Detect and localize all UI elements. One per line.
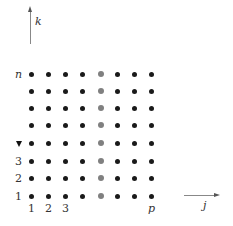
- highlighted-lattice-point: [98, 122, 104, 128]
- column-label-p: p: [148, 203, 155, 214]
- lattice-point: [80, 89, 85, 94]
- lattice-point: [46, 141, 51, 146]
- column-label-3: 3: [62, 203, 69, 214]
- lattice-point: [115, 176, 120, 181]
- lattice-point: [149, 159, 154, 164]
- lattice-point: [29, 159, 34, 164]
- lattice-point: [132, 106, 137, 111]
- lattice-point: [80, 123, 85, 128]
- lattice-point: [46, 159, 51, 164]
- lattice-point: [63, 194, 68, 199]
- lattice-point: [115, 123, 120, 128]
- column-label-2: 2: [45, 203, 52, 214]
- lattice-point: [132, 159, 137, 164]
- lattice-point: [132, 89, 137, 94]
- lattice-point: [63, 159, 68, 164]
- highlighted-lattice-point: [98, 158, 104, 164]
- lattice-point: [115, 141, 120, 146]
- lattice-point: [46, 176, 51, 181]
- lattice-point: [80, 176, 85, 181]
- lattice-point: [29, 194, 34, 199]
- lattice-point: [132, 141, 137, 146]
- k-axis-line: [30, 10, 31, 44]
- lattice-point: [115, 72, 120, 77]
- lattice-point: [29, 72, 34, 77]
- lattice-point: [149, 194, 154, 199]
- lattice-point: [80, 194, 85, 199]
- lattice-point: [115, 194, 120, 199]
- lattice-point: [46, 89, 51, 94]
- k-axis-arrowhead-icon: [28, 6, 32, 12]
- lattice-point: [80, 72, 85, 77]
- highlighted-lattice-point: [98, 105, 104, 111]
- lattice-point: [80, 106, 85, 111]
- lattice-point: [46, 106, 51, 111]
- lattice-point: [29, 89, 34, 94]
- lattice-point: [63, 89, 68, 94]
- lattice-point: [132, 194, 137, 199]
- lattice-point: [80, 159, 85, 164]
- lattice-point: [63, 106, 68, 111]
- highlighted-lattice-point: [98, 175, 104, 181]
- lattice-point: [149, 141, 154, 146]
- lattice-point: [63, 176, 68, 181]
- lattice-point: [149, 176, 154, 181]
- lattice-point: [63, 123, 68, 128]
- row-label-3: 3: [15, 156, 22, 167]
- highlighted-lattice-point: [98, 71, 104, 77]
- lattice-point: [149, 89, 154, 94]
- j-axis-label: j: [203, 200, 206, 211]
- lattice-point: [29, 176, 34, 181]
- lattice-point: [29, 106, 34, 111]
- highlighted-lattice-point: [98, 140, 104, 146]
- row-marker-triangle-icon: [16, 141, 22, 147]
- j-axis-line: [184, 195, 216, 196]
- lattice-point: [132, 123, 137, 128]
- row-label-n: n: [15, 69, 22, 80]
- lattice-point: [80, 141, 85, 146]
- j-axis-arrowhead-icon: [214, 193, 220, 197]
- highlighted-lattice-point: [98, 88, 104, 94]
- row-label-1: 1: [15, 191, 22, 202]
- lattice-point: [132, 176, 137, 181]
- lattice-point: [115, 159, 120, 164]
- lattice-point: [29, 123, 34, 128]
- highlighted-lattice-point: [98, 193, 104, 199]
- lattice-point: [149, 72, 154, 77]
- lattice-point: [46, 123, 51, 128]
- lattice-point: [63, 141, 68, 146]
- lattice-point: [63, 72, 68, 77]
- lattice-point: [149, 123, 154, 128]
- lattice-point: [46, 72, 51, 77]
- lattice-point: [115, 106, 120, 111]
- column-label-1: 1: [28, 203, 35, 214]
- lattice-point: [46, 194, 51, 199]
- lattice-point: [132, 72, 137, 77]
- lattice-point: [115, 89, 120, 94]
- lattice-point: [29, 141, 34, 146]
- k-axis-label: k: [35, 16, 42, 27]
- row-label-2: 2: [15, 173, 22, 184]
- lattice-point: [149, 106, 154, 111]
